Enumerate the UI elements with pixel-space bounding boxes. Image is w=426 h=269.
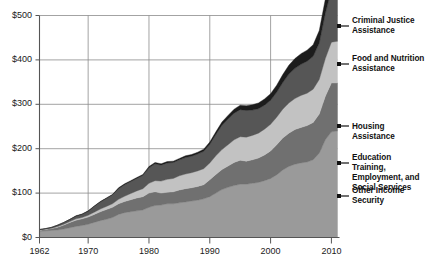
legend-leader-lines bbox=[337, 24, 349, 198]
y-axis-tick-label: $200 bbox=[0, 144, 32, 153]
y-axis-tick-label: $100 bbox=[0, 188, 32, 197]
x-axis-tick-label: 2000 bbox=[251, 247, 291, 256]
x-axis-tick-label: 1962 bbox=[20, 247, 60, 256]
y-axis-tick-label: $400 bbox=[0, 55, 32, 64]
y-axis-tick-label: $300 bbox=[0, 99, 32, 108]
x-axis-tick-label: 2010 bbox=[311, 247, 351, 256]
legend-item-label: Food and Nutrition Assistance bbox=[352, 54, 426, 74]
legend-item-label: Housing Assistance bbox=[352, 122, 426, 142]
x-axis-tick-label: 1990 bbox=[190, 247, 230, 256]
legend-item-label: Criminal Justice Assistance bbox=[352, 16, 426, 36]
legend-marker bbox=[337, 161, 341, 165]
legend-marker bbox=[337, 24, 341, 28]
y-axis-tick-label: $0 bbox=[0, 233, 32, 242]
legend-item-label: Other Income Security bbox=[352, 186, 426, 206]
legend-marker bbox=[337, 194, 341, 198]
legend-marker bbox=[337, 62, 341, 66]
stacked-area-chart: $500$400$300$200$100$0 19621970198019902… bbox=[0, 0, 426, 269]
x-axis-tick-label: 1970 bbox=[68, 247, 108, 256]
legend-marker bbox=[337, 124, 341, 128]
x-axis-tick-label: 1980 bbox=[129, 247, 169, 256]
y-axis-tick-label: $500 bbox=[0, 11, 32, 20]
area-series-group bbox=[40, 0, 338, 238]
